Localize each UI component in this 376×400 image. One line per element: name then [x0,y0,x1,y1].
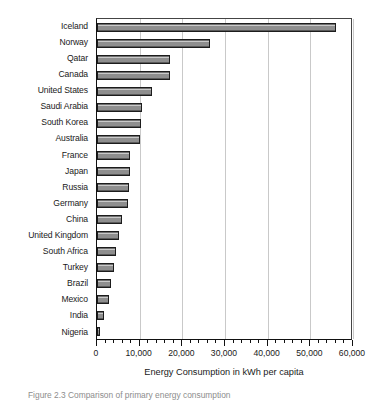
y-axis-label: Mexico [0,292,92,308]
bar [97,199,128,208]
x-tick-label: 40,000 [254,349,280,358]
x-tick-minor [190,340,191,343]
bar [97,151,130,160]
bar [97,39,210,48]
x-tick-major [309,340,310,346]
x-tick-minor [130,340,131,343]
bar [97,279,111,288]
y-axis-label: India [0,308,92,324]
x-tick-minor [250,340,251,343]
bar-row [97,195,351,211]
bar [97,119,141,128]
y-axis-label: Saudi Arabia [0,98,92,114]
bar-row [97,19,351,35]
y-axis-label: Germany [0,195,92,211]
y-axis-category-labels: IcelandNorwayQatarCanadaUnited StatesSau… [0,18,92,340]
y-axis-label: Japan [0,163,92,179]
x-tick-minor [215,340,216,343]
x-tick-major [96,340,97,346]
x-axis-title: Energy Consumption in kWh per capita [96,367,352,377]
bar-row [97,67,351,83]
x-tick-minor [105,340,106,343]
y-axis-label: United States [0,82,92,98]
x-tick-minor [233,340,234,343]
y-axis-label: Canada [0,66,92,82]
x-tick-major [267,340,268,346]
bar-row [97,115,351,131]
bar [97,183,129,192]
y-axis-label: Norway [0,34,92,50]
x-tick-minor [343,340,344,343]
x-tick-major [139,340,140,346]
figure-container: IcelandNorwayQatarCanadaUnited StatesSau… [0,0,376,400]
x-tick-minor [275,340,276,343]
x-tick-minor [326,340,327,343]
bar [97,327,100,336]
x-tick-minor [173,340,174,343]
y-axis-label: Qatar [0,50,92,66]
bar [97,71,170,80]
y-axis-label: France [0,147,92,163]
bar [97,55,170,64]
bar-row [97,259,351,275]
y-axis-label: Australia [0,131,92,147]
x-tick-label: 10,000 [126,349,152,358]
bar-row [97,275,351,291]
bar-chart: IcelandNorwayQatarCanadaUnited StatesSau… [0,0,376,345]
bar-row [97,291,351,307]
bar-row [97,227,351,243]
x-tick-minor [122,340,123,343]
x-tick-minor [284,340,285,343]
bar [97,231,119,240]
bar-row [97,51,351,67]
bar [97,103,142,112]
x-tick-minor [301,340,302,343]
bar-row [97,307,351,323]
bar-row [97,323,351,339]
x-tick-minor [113,340,114,343]
x-tick-label: 0 [94,349,99,358]
x-tick-minor [241,340,242,343]
bar-row [97,99,351,115]
plot-area [96,18,352,340]
figure-caption: Figure 2.3 Comparison of primary energy … [28,390,368,400]
bar [97,263,114,272]
bar-row [97,211,351,227]
y-axis-label: Turkey [0,259,92,275]
x-axis-ticks [96,340,352,347]
y-axis-label: China [0,211,92,227]
bar-row [97,147,351,163]
bar [97,87,152,96]
bar [97,23,336,32]
bar-row [97,243,351,259]
x-tick-minor [147,340,148,343]
x-tick-label: 20,000 [168,349,194,358]
bar [97,167,130,176]
x-axis-tick-labels: 010,00020,00030,00040,00050,00060,000 [96,349,352,361]
y-axis-label: South Korea [0,115,92,131]
x-tick-major [181,340,182,346]
x-tick-minor [292,340,293,343]
x-tick-minor [198,340,199,343]
gridline [353,19,354,339]
y-axis-label: South Africa [0,243,92,259]
x-tick-minor [207,340,208,343]
y-axis-label: United Kingdom [0,227,92,243]
bar [97,311,104,320]
bar-row [97,179,351,195]
x-tick-major [352,340,353,346]
x-tick-minor [156,340,157,343]
x-tick-label: 50,000 [296,349,322,358]
x-tick-minor [318,340,319,343]
bar [97,295,109,304]
bar-row [97,35,351,51]
x-tick-minor [164,340,165,343]
x-tick-minor [258,340,259,343]
x-tick-label: 30,000 [211,349,237,358]
y-axis-label: Iceland [0,18,92,34]
bar-row [97,83,351,99]
y-axis-label: Nigeria [0,324,92,340]
y-axis-label: Brazil [0,276,92,292]
bar [97,135,140,144]
x-tick-minor [335,340,336,343]
